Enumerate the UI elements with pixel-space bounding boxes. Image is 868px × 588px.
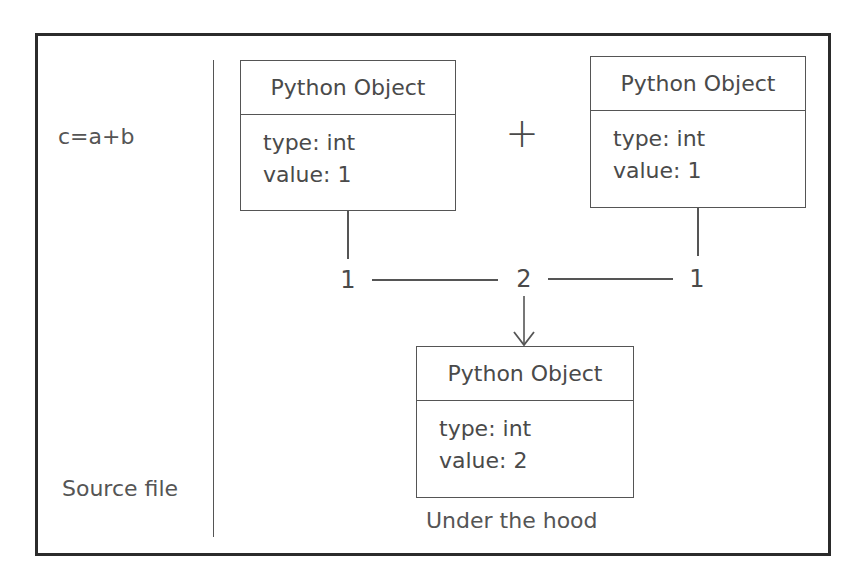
- python-object-box-result: Python Object type: int value: 2: [416, 346, 634, 498]
- connector-right-horizontal: [548, 278, 673, 280]
- object-body: type: int value: 1: [591, 111, 805, 187]
- left-operand-value: 1: [340, 266, 355, 294]
- source-file-caption: Source file: [62, 476, 178, 501]
- object-title: Python Object: [241, 61, 455, 115]
- python-object-box-a: Python Object type: int value: 1: [240, 60, 456, 211]
- object-value: value: 2: [439, 445, 633, 477]
- object-title: Python Object: [591, 57, 805, 111]
- under-the-hood-caption: Under the hood: [426, 508, 598, 533]
- python-object-box-b: Python Object type: int value: 1: [590, 56, 806, 208]
- connector-right-vertical: [697, 208, 699, 256]
- down-arrow-icon: [510, 294, 540, 348]
- connector-left-vertical: [347, 211, 349, 259]
- object-title: Python Object: [417, 347, 633, 401]
- object-type: type: int: [439, 413, 633, 445]
- result-value: 2: [516, 265, 531, 293]
- object-body: type: int value: 1: [241, 115, 455, 191]
- plus-operator: +: [505, 110, 539, 156]
- panel-divider: [213, 60, 214, 537]
- object-value: value: 1: [613, 155, 805, 187]
- source-expression: c=a+b: [58, 124, 134, 149]
- connector-left-horizontal: [372, 279, 498, 281]
- object-type: type: int: [263, 127, 455, 159]
- object-body: type: int value: 2: [417, 401, 633, 477]
- object-type: type: int: [613, 123, 805, 155]
- right-operand-value: 1: [689, 265, 704, 293]
- object-value: value: 1: [263, 159, 455, 191]
